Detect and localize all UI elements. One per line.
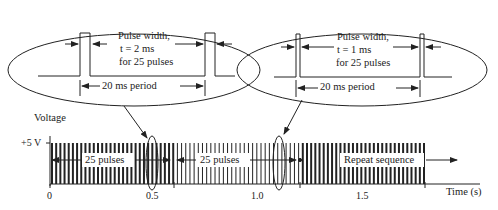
x-tick-1-5: 1.5: [356, 191, 369, 201]
callout-2-value: t = 1 ms: [337, 45, 371, 56]
callout-2-period: 20 ms period: [318, 82, 377, 93]
x-axis-label: Time (s): [446, 187, 482, 198]
segment-1-label: 25 pulses: [85, 155, 124, 166]
callout-1-value: t = 2 ms: [120, 44, 154, 55]
pwm-diagram: [0, 0, 498, 210]
zoom-ellipse-2: [273, 136, 285, 190]
x-tick-1-0: 1.0: [251, 191, 264, 201]
callout-1-detail: for 25 pulses: [119, 57, 173, 68]
segment-2-label: 25 pulses: [200, 155, 239, 166]
x-tick-0: 0: [47, 191, 52, 201]
callout-2-title: Pulse width,: [337, 32, 389, 43]
y-axis-label: Voltage: [34, 113, 66, 124]
callout-1-period: 20 ms period: [100, 81, 159, 92]
callout-1-title: Pulse width,: [118, 31, 170, 42]
plus5v-label: +5 V: [21, 138, 41, 148]
segment-3-label: Repeat sequence: [344, 155, 414, 166]
callout-2-detail: for 25 pulses: [336, 58, 390, 69]
x-tick-0-5: 0.5: [146, 191, 159, 201]
